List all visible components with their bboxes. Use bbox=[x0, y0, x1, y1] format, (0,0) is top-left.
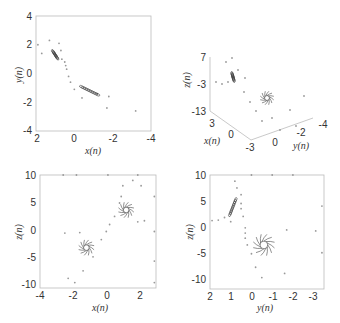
y-tick: -4 bbox=[319, 119, 328, 130]
y-tick: -5 bbox=[27, 252, 36, 263]
x-tick: -2 bbox=[109, 133, 118, 144]
attractors bbox=[51, 49, 100, 97]
x-tick: -3 bbox=[309, 291, 318, 302]
panel-xyz-3d: 7 -3 -13 3 0 -3 0 -2 -4 x(n) y(n) z(n) bbox=[181, 52, 328, 153]
attractors bbox=[79, 202, 134, 255]
x-axis-label: x(n) bbox=[203, 135, 221, 147]
z-axis-label: z(n) bbox=[181, 72, 193, 89]
y-tick: 10 bbox=[25, 170, 37, 181]
x-tick: -4 bbox=[36, 290, 45, 301]
y-tick: 2 bbox=[26, 39, 32, 50]
x-tick: 1 bbox=[228, 291, 234, 302]
y-tick: -10 bbox=[192, 274, 207, 285]
x-tick: -2 bbox=[289, 291, 298, 302]
y-axis-label: y(n) bbox=[13, 66, 25, 84]
plot-frame bbox=[210, 175, 324, 289]
y-tick: 0 bbox=[200, 222, 206, 233]
x-axis-label: x(n) bbox=[91, 302, 109, 314]
y-axis-label: z(n) bbox=[184, 224, 196, 241]
x-tick: 0 bbox=[249, 291, 255, 302]
y-axis-label: y(n) bbox=[292, 140, 310, 152]
x-tick: 0 bbox=[228, 129, 234, 140]
x-tick: 2 bbox=[137, 290, 143, 301]
z-tick: -3 bbox=[197, 79, 206, 90]
y-tick: -2 bbox=[23, 97, 32, 108]
y-tick: 4 bbox=[26, 11, 32, 22]
y-tick: -10 bbox=[22, 279, 37, 290]
scatter-points bbox=[215, 57, 305, 131]
y-tick: 5 bbox=[30, 197, 36, 208]
y-axis-label: z(n) bbox=[13, 224, 25, 241]
y-tick: -4 bbox=[23, 125, 32, 136]
attractors bbox=[230, 71, 273, 105]
y-tick: 0 bbox=[30, 225, 36, 236]
panel-xz: 10 5 0 -5 -10 -4 -2 0 2 x(n) z(n) bbox=[13, 170, 156, 314]
z-tick: -13 bbox=[192, 106, 207, 117]
x-tick: 2 bbox=[207, 291, 213, 302]
x-tick: -2 bbox=[69, 290, 78, 301]
x-axis-label: x(n) bbox=[84, 145, 102, 157]
x-axis-label: y(n) bbox=[256, 302, 274, 314]
y-tick: -2 bbox=[297, 127, 306, 138]
plot-frame bbox=[40, 175, 156, 288]
y-tick: 10 bbox=[195, 170, 207, 181]
x-tick: 2 bbox=[34, 133, 40, 144]
x-tick: -3 bbox=[246, 142, 255, 153]
x-tick: 0 bbox=[104, 290, 110, 301]
panel-yz: 10 5 0 -5 -10 2 1 0 -1 -2 -3 y(n) z(n) bbox=[184, 170, 324, 314]
y-tick: 5 bbox=[200, 196, 206, 207]
attractors bbox=[228, 197, 274, 255]
x-tick: -1 bbox=[269, 291, 278, 302]
panel-xy: 4 2 0 -2 -4 2 0 -2 -4 x(n) y(n) bbox=[13, 11, 156, 157]
y-tick: 0 bbox=[26, 68, 32, 79]
y-tick: 0 bbox=[272, 137, 278, 148]
x-tick: 3 bbox=[209, 118, 215, 129]
plot-frame bbox=[36, 16, 151, 131]
x-tick: -4 bbox=[147, 133, 156, 144]
scatter-points bbox=[37, 40, 137, 112]
y-tick: -5 bbox=[197, 248, 206, 259]
scatter-points bbox=[62, 174, 155, 283]
z-tick: 7 bbox=[200, 52, 206, 63]
scatter-points bbox=[211, 174, 323, 278]
figure-canvas: 4 2 0 -2 -4 2 0 -2 -4 x(n) y(n) 7 -3 -13… bbox=[0, 0, 340, 323]
x-tick: 0 bbox=[71, 133, 77, 144]
